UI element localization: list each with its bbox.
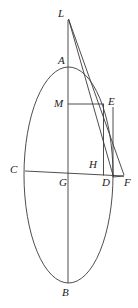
point-label-F: F [124, 177, 131, 188]
point-label-B: B [62, 287, 69, 298]
point-label-M: M [54, 98, 63, 109]
point-label-G: G [59, 177, 67, 188]
point-label-A: A [58, 55, 65, 66]
line-LD [69, 19, 114, 177]
point-label-C: C [10, 164, 17, 175]
segment-DF [113, 176, 124, 177]
point-label-E: E [108, 96, 115, 107]
point-label-L: L [58, 8, 64, 19]
geometry-figure: L A M E C H G D F B [0, 0, 138, 308]
point-label-H: H [89, 159, 97, 170]
figure-svg [0, 0, 138, 308]
line-LF [69, 19, 125, 175]
point-label-D: D [102, 177, 110, 188]
